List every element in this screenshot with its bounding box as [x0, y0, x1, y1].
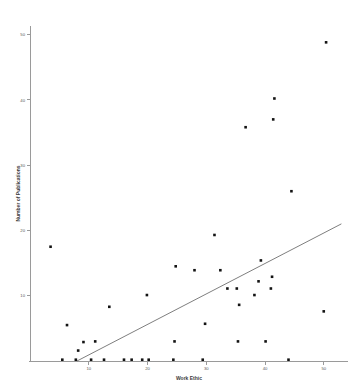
data-point — [90, 358, 93, 361]
axes-group — [29, 26, 348, 361]
fit-line — [77, 224, 341, 361]
data-point — [237, 340, 240, 343]
data-point — [272, 118, 275, 121]
regression-line — [77, 224, 341, 361]
data-point — [146, 294, 149, 297]
data-point — [325, 41, 328, 44]
data-point — [322, 310, 325, 313]
data-point — [75, 358, 78, 361]
y-axis-tick-label: 50 — [20, 32, 25, 37]
data-point — [273, 97, 276, 100]
data-point — [238, 304, 241, 307]
data-point — [290, 190, 293, 193]
data-point — [236, 287, 239, 290]
data-point — [213, 234, 216, 237]
data-point — [141, 358, 144, 361]
tick-labels-group: 10203040501020304050 — [20, 32, 326, 371]
y-axis-tick-label: 30 — [20, 163, 25, 168]
data-point — [77, 349, 80, 352]
data-point — [270, 287, 273, 290]
axis-titles-group: Work EthicNumber of Publications — [15, 165, 202, 381]
data-point — [193, 269, 196, 272]
y-axis-tick-label: 10 — [20, 293, 25, 298]
data-point — [66, 324, 69, 327]
data-point — [264, 340, 267, 343]
scatter-plot-figure: 10203040501020304050 Work EthicNumber of… — [0, 0, 356, 391]
data-point — [257, 280, 260, 283]
data-point — [244, 126, 247, 129]
data-point — [201, 358, 204, 361]
data-point — [82, 341, 85, 344]
data-point — [49, 245, 52, 248]
x-axis-tick-label: 20 — [145, 366, 150, 371]
y-axis-title: Number of Publications — [15, 165, 21, 221]
data-point — [271, 275, 274, 278]
data-point — [253, 294, 256, 297]
data-point — [61, 358, 64, 361]
data-point — [130, 358, 133, 361]
x-axis-tick-label: 40 — [263, 366, 268, 371]
data-point — [287, 358, 290, 361]
data-points-group — [49, 41, 327, 361]
data-point — [123, 358, 126, 361]
data-point — [219, 269, 222, 272]
data-point — [94, 340, 97, 343]
chart-canvas: 10203040501020304050 Work EthicNumber of… — [0, 0, 356, 391]
data-point — [173, 340, 176, 343]
x-axis-tick-label: 50 — [321, 366, 326, 371]
data-point — [172, 358, 175, 361]
data-point — [226, 287, 229, 290]
x-axis-tick-label: 30 — [204, 366, 209, 371]
ticks-group — [27, 35, 324, 365]
y-axis-tick-label: 40 — [20, 98, 25, 103]
x-axis-title: Work Ethic — [176, 375, 202, 381]
data-point — [174, 265, 177, 268]
data-point — [108, 306, 111, 309]
data-point — [260, 259, 263, 262]
data-point — [147, 358, 150, 361]
x-axis-tick-label: 10 — [86, 366, 91, 371]
data-point — [204, 322, 207, 325]
y-axis-tick-label: 20 — [20, 228, 25, 233]
data-point — [103, 358, 106, 361]
